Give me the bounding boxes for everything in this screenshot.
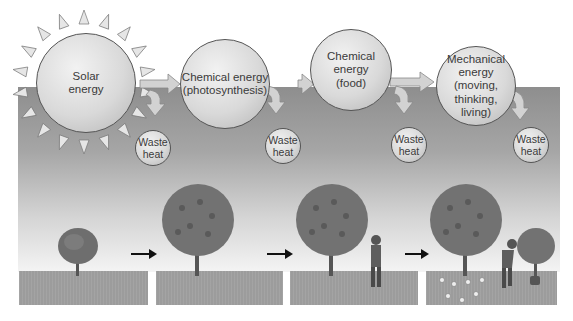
waste-heat-label: Waste heat <box>516 133 545 157</box>
solar-energy-circle: Solar energy <box>36 33 136 133</box>
mechanical-energy-label: Mechanical energy (moving, thinking, liv… <box>447 53 505 119</box>
man-eating-icon <box>366 234 386 288</box>
chemical-photosynthesis-label: Chemical energy (photosynthesis) <box>182 71 268 97</box>
waste-heat-circle-3: Waste heat <box>391 127 427 163</box>
solar-energy-label: Solar energy <box>68 70 103 96</box>
chemical-food-label: Chemical energy (food) <box>327 50 375 90</box>
ground-panel-3 <box>290 271 418 305</box>
mechanical-energy-circle: Mechanical energy (moving, thinking, liv… <box>436 46 516 126</box>
waste-heat-label: Waste heat <box>268 134 297 158</box>
ground-panel-2 <box>156 271 283 305</box>
young-tree-icon <box>516 226 556 286</box>
fallen-fruit-icon <box>436 274 496 308</box>
waste-heat-circle-1: Waste heat <box>135 130 171 166</box>
progression-arrow-1 <box>131 253 155 255</box>
waste-heat-label: Waste heat <box>138 136 167 160</box>
fruit-tree-icon <box>294 182 370 276</box>
waste-heat-circle-2: Waste heat <box>265 128 301 164</box>
ground-panel-1 <box>19 271 148 305</box>
progression-arrow-3 <box>405 253 427 255</box>
chemical-food-circle: Chemical energy (food) <box>310 29 392 111</box>
chemical-photosynthesis-circle: Chemical energy (photosynthesis) <box>180 39 270 129</box>
small-tree-icon <box>56 224 100 276</box>
fruit-tree-icon <box>428 182 504 276</box>
progression-arrow-2 <box>267 253 291 255</box>
fruit-tree-icon <box>160 182 236 276</box>
waste-heat-circle-4: Waste heat <box>513 127 549 163</box>
waste-heat-label: Waste heat <box>394 133 423 157</box>
